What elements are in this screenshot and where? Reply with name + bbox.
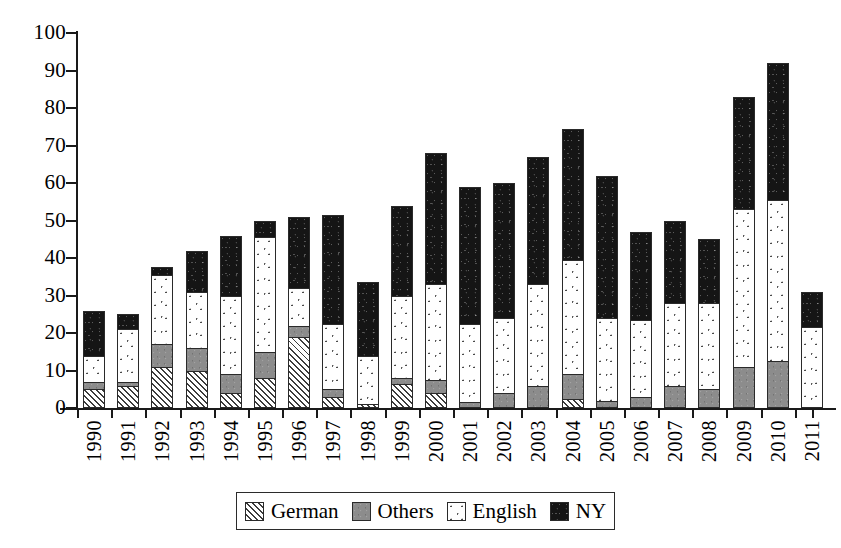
bar-segment-english[interactable]	[664, 303, 686, 386]
bar-segment-english[interactable]	[493, 318, 515, 393]
bar-segment-ny[interactable]	[562, 129, 584, 260]
bar-segment-ny[interactable]	[220, 236, 242, 296]
bar-segment-others[interactable]	[254, 352, 276, 378]
bar-segment-german[interactable]	[117, 386, 139, 409]
bar-column[interactable]	[254, 221, 276, 409]
bar-segment-english[interactable]	[527, 284, 549, 385]
bar-segment-german[interactable]	[254, 378, 276, 408]
bar-segment-ny[interactable]	[630, 232, 652, 320]
bar-segment-others[interactable]	[733, 367, 755, 408]
bar-segment-ny[interactable]	[801, 292, 823, 328]
bar-segment-others[interactable]	[562, 374, 584, 398]
bar-segment-others[interactable]	[493, 393, 515, 408]
legend-item-others[interactable]: Others	[352, 501, 434, 522]
bar-segment-others[interactable]	[596, 401, 618, 409]
bar-segment-ny[interactable]	[527, 157, 549, 285]
bar-segment-ny[interactable]	[391, 206, 413, 296]
bar-column[interactable]	[220, 236, 242, 409]
bar-column[interactable]	[117, 314, 139, 408]
bar-segment-english[interactable]	[767, 200, 789, 361]
bar-segment-others[interactable]	[698, 389, 720, 408]
bar-segment-others[interactable]	[459, 402, 481, 408]
bar-segment-english[interactable]	[220, 296, 242, 375]
bar-segment-english[interactable]	[733, 209, 755, 367]
bar-column[interactable]	[596, 176, 618, 409]
bar-column[interactable]	[83, 311, 105, 409]
bar-column[interactable]	[493, 183, 515, 408]
bar-segment-ny[interactable]	[493, 183, 515, 318]
bar-segment-german[interactable]	[391, 384, 413, 408]
bar-segment-german[interactable]	[288, 337, 310, 408]
bar-segment-others[interactable]	[322, 389, 344, 397]
bar-segment-english[interactable]	[254, 237, 276, 351]
bar-column[interactable]	[733, 97, 755, 408]
bar-segment-english[interactable]	[391, 296, 413, 379]
bar-segment-others[interactable]	[220, 374, 242, 393]
bar-segment-others[interactable]	[151, 344, 173, 367]
bar-column[interactable]	[630, 232, 652, 408]
bar-segment-others[interactable]	[664, 386, 686, 409]
bar-segment-ny[interactable]	[425, 153, 447, 284]
bar-column[interactable]	[698, 239, 720, 408]
bar-segment-others[interactable]	[83, 382, 105, 390]
bar-segment-ny[interactable]	[322, 215, 344, 324]
bar-column[interactable]	[664, 221, 686, 409]
bar-segment-english[interactable]	[562, 260, 584, 374]
bar-column[interactable]	[562, 129, 584, 408]
bar-segment-german[interactable]	[322, 397, 344, 408]
bar-segment-english[interactable]	[425, 284, 447, 380]
bar-segment-others[interactable]	[527, 386, 549, 409]
bar-column[interactable]	[767, 63, 789, 408]
bar-column[interactable]	[288, 217, 310, 408]
bar-segment-others[interactable]	[630, 397, 652, 408]
bar-segment-others[interactable]	[767, 361, 789, 408]
bar-segment-others[interactable]	[186, 348, 208, 371]
bar-segment-ny[interactable]	[288, 217, 310, 288]
bar-segment-german[interactable]	[220, 393, 242, 408]
bar-segment-ny[interactable]	[767, 63, 789, 200]
bar-segment-ny[interactable]	[357, 282, 379, 355]
bar-column[interactable]	[322, 215, 344, 408]
bar-segment-ny[interactable]	[254, 221, 276, 238]
legend-item-german[interactable]: German	[245, 501, 339, 522]
bar-segment-german[interactable]	[562, 399, 584, 408]
bar-segment-others[interactable]	[425, 380, 447, 393]
bar-column[interactable]	[425, 153, 447, 408]
bar-segment-english[interactable]	[357, 356, 379, 405]
bar-segment-english[interactable]	[801, 327, 823, 408]
bar-column[interactable]	[801, 292, 823, 408]
bar-segment-english[interactable]	[630, 320, 652, 397]
bar-segment-english[interactable]	[322, 324, 344, 390]
bar-segment-english[interactable]	[186, 292, 208, 348]
bar-segment-english[interactable]	[698, 303, 720, 389]
bar-segment-english[interactable]	[117, 329, 139, 382]
bar-column[interactable]	[459, 187, 481, 408]
bar-segment-english[interactable]	[288, 288, 310, 326]
bar-segment-others[interactable]	[288, 326, 310, 337]
bar-segment-english[interactable]	[596, 318, 618, 401]
bar-segment-ny[interactable]	[459, 187, 481, 324]
bar-segment-ny[interactable]	[83, 311, 105, 356]
bar-segment-german[interactable]	[425, 393, 447, 408]
bar-segment-english[interactable]	[459, 324, 481, 403]
bar-segment-german[interactable]	[151, 367, 173, 408]
legend-item-ny[interactable]: NY	[550, 501, 606, 522]
bar-column[interactable]	[527, 157, 549, 408]
bar-segment-ny[interactable]	[733, 97, 755, 210]
bar-segment-german[interactable]	[186, 371, 208, 409]
bar-segment-ny[interactable]	[698, 239, 720, 303]
bar-column[interactable]	[186, 251, 208, 409]
bar-segment-english[interactable]	[83, 356, 105, 382]
bar-column[interactable]	[391, 206, 413, 409]
bar-segment-english[interactable]	[151, 275, 173, 344]
bar-column[interactable]	[357, 282, 379, 408]
bar-segment-ny[interactable]	[596, 176, 618, 319]
bar-segment-ny[interactable]	[117, 314, 139, 329]
legend-item-english[interactable]: English	[447, 501, 537, 522]
bar-segment-german[interactable]	[357, 404, 379, 408]
bar-segment-ny[interactable]	[186, 251, 208, 292]
bar-segment-ny[interactable]	[151, 267, 173, 275]
bar-column[interactable]	[151, 267, 173, 408]
bar-segment-ny[interactable]	[664, 221, 686, 304]
bar-segment-german[interactable]	[83, 389, 105, 408]
